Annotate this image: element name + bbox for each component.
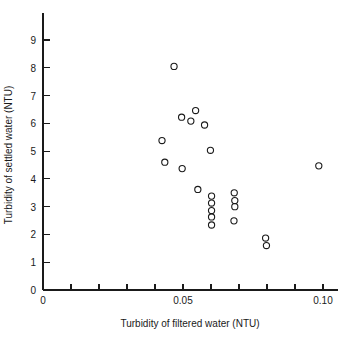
y-tick-label: 6	[30, 118, 36, 129]
data-point	[208, 222, 214, 228]
data-point	[231, 218, 237, 224]
y-tick-label: 8	[30, 63, 36, 74]
y-tick-label: 3	[30, 202, 36, 213]
x-tick-label: 0.10	[313, 295, 333, 306]
data-point	[179, 114, 185, 120]
y-axis-title: Turbidity of settled water (NTU)	[3, 86, 14, 225]
scatter-plot-figure: 00.050.10 Turbidity of filtered water (N…	[0, 0, 348, 342]
data-point	[232, 197, 238, 203]
y-tick-label: 5	[30, 146, 36, 157]
y-tick-label: 7	[30, 91, 36, 102]
y-axis-ticks	[43, 40, 50, 262]
x-axis-ticks	[43, 284, 323, 290]
data-point	[231, 190, 237, 196]
y-tick-label: 9	[30, 35, 36, 46]
y-axis-tick-labels: 0123456789	[30, 35, 36, 296]
y-tick-label: 0	[30, 285, 36, 296]
data-point	[263, 242, 269, 248]
x-tick-label: 0	[40, 295, 46, 306]
data-point	[263, 235, 269, 241]
data-point	[171, 63, 177, 69]
data-point	[208, 193, 214, 199]
data-point	[207, 147, 213, 153]
data-point	[316, 163, 322, 169]
data-point	[195, 186, 201, 192]
data-point-series	[159, 63, 322, 248]
data-point	[179, 166, 185, 172]
data-point	[208, 200, 214, 206]
data-point	[162, 159, 168, 165]
y-tick-label: 2	[30, 229, 36, 240]
y-tick-label: 1	[30, 257, 36, 268]
data-point	[201, 122, 207, 128]
x-axis-title: Turbidity of filtered water (NTU)	[120, 318, 259, 329]
y-tick-label: 4	[30, 174, 36, 185]
data-point	[159, 137, 165, 143]
x-tick-label: 0.05	[173, 295, 193, 306]
x-axis-group: 00.050.10 Turbidity of filtered water (N…	[40, 284, 338, 329]
data-point	[193, 107, 199, 113]
data-point	[188, 118, 194, 124]
y-axis-group: 0123456789 Turbidity of settled water (N…	[3, 13, 50, 296]
plot-canvas: 00.050.10 Turbidity of filtered water (N…	[0, 0, 348, 342]
data-point	[208, 214, 214, 220]
data-point	[208, 207, 214, 213]
data-point	[232, 204, 238, 210]
x-axis-tick-labels: 00.050.10	[40, 295, 333, 306]
